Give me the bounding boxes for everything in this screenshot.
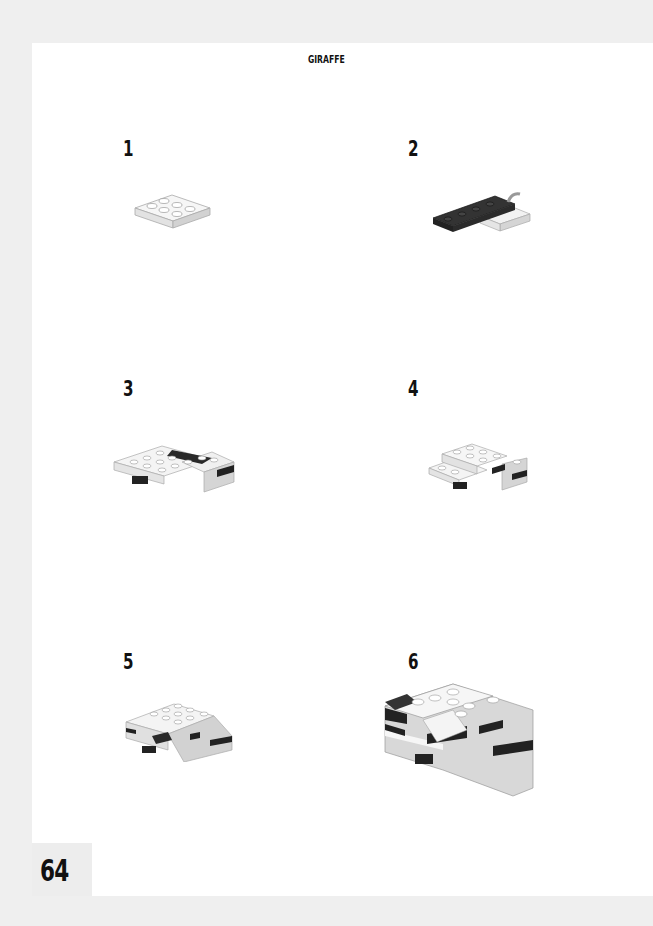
step-number-6: 6: [408, 652, 419, 673]
step-6-giraffe-body-icon: [383, 680, 538, 800]
step-number-1: 1: [123, 139, 134, 160]
step-5-assembly-icon: [124, 700, 234, 762]
step-4-assembly-icon: [427, 438, 532, 496]
page-title: GIRAFFE: [0, 53, 653, 66]
step-number-4: 4: [408, 379, 419, 400]
step-number-5: 5: [123, 652, 134, 673]
step-number-2: 2: [408, 139, 419, 160]
step-2-brick-icon: [430, 188, 540, 238]
page-number: 64: [40, 856, 69, 886]
step-3-assembly-icon: [112, 438, 237, 496]
step-number-3: 3: [123, 379, 134, 400]
page-title-text: GIRAFFE: [308, 53, 345, 66]
step-1-brick-icon: [130, 190, 220, 235]
